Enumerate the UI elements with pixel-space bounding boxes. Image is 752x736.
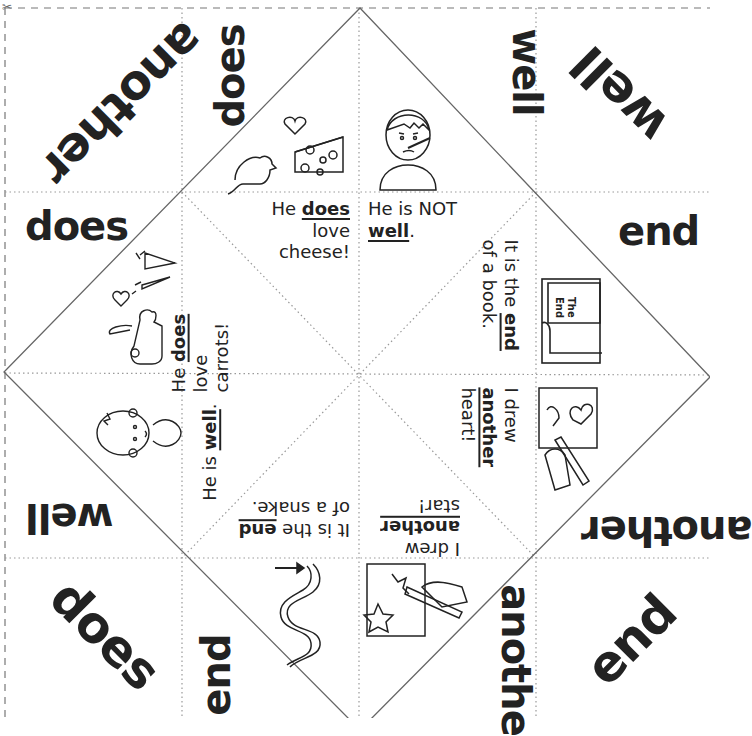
caption-mouse-cheese: He does love cheese! xyxy=(265,198,350,263)
corner-word-br-bottom: anothe xyxy=(496,584,536,736)
hand-drawing-stars-icon xyxy=(362,562,472,637)
happy-boy-icon xyxy=(93,395,183,475)
sick-boy-thermometer-icon xyxy=(375,100,445,195)
corner-word-bl-bottom: end xyxy=(196,634,236,715)
caption-heart-drawing: I drew another heart! xyxy=(458,387,523,487)
svg-text:The: The xyxy=(566,297,577,318)
corner-word-bl-left: well xyxy=(26,498,114,538)
hand-drawing-hearts-icon xyxy=(535,385,605,495)
caption-book-end: It is the end of a book. xyxy=(478,240,521,400)
corner-word-tl-left: does xyxy=(25,206,128,246)
caption-rabbit-carrots: He does love carrots! xyxy=(168,242,233,392)
caption-star-drawing: I drew another star! xyxy=(370,495,460,560)
caption-snake-end: It is the end of a snake. xyxy=(225,498,350,541)
caption-happy-boy: He is well. xyxy=(199,381,221,501)
svg-text:End: End xyxy=(554,297,565,318)
corner-word-tr-top: well xyxy=(507,28,547,116)
caption-sick-boy: He is NOT well. xyxy=(368,198,457,241)
corner-word-tr-right: end xyxy=(618,211,699,251)
mouse-cheese-heart-icon xyxy=(225,110,355,200)
book-the-end-icon: The End xyxy=(540,275,605,365)
snake-arrow-icon xyxy=(275,560,355,670)
corner-word-br-right: another xyxy=(582,511,752,551)
